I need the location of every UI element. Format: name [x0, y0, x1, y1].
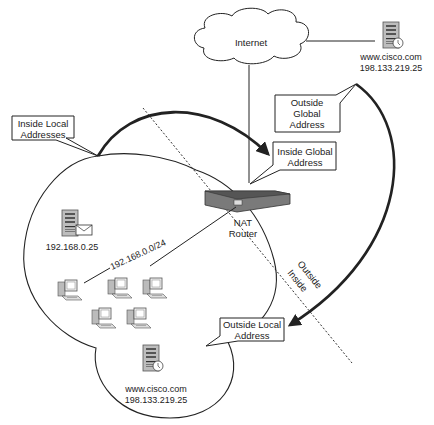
callout-outside-local: Outside Local Address [206, 318, 284, 346]
svg-text:Address: Address [235, 330, 270, 341]
router-label-router: Router [229, 228, 258, 239]
nat-router-icon [205, 191, 290, 212]
translation-arrow-inside [98, 112, 268, 156]
mail-server-icon [62, 210, 92, 236]
pc-icon [143, 278, 167, 298]
internet-label: Internet [235, 37, 268, 48]
router-label-nat: NAT [234, 217, 252, 228]
callout-outside-global: Outside Global Address [275, 84, 356, 132]
pc-icon [58, 280, 82, 300]
svg-text:Inside Local: Inside Local [18, 118, 69, 129]
external-server-hostname: www.cisco.com [359, 52, 422, 62]
svg-text:Outside: Outside [291, 97, 324, 108]
svg-text:Address: Address [288, 157, 323, 168]
svg-text:Global: Global [293, 108, 320, 119]
external-server-icon [383, 22, 403, 48]
pc-icon [108, 278, 132, 298]
outside-local-ip: 198.133.219.25 [125, 395, 188, 405]
subnet-label: 192.168.0.0/24 [109, 237, 168, 271]
mail-server-ip: 192.168.0.25 [46, 242, 99, 252]
pc-icon [127, 308, 151, 328]
svg-text:Inside Global: Inside Global [277, 146, 332, 157]
callout-inside-local: Inside Local Addresses [12, 116, 98, 156]
svg-text:Address: Address [290, 119, 325, 130]
outside-local-server-icon [143, 345, 163, 371]
pc-icon [92, 308, 116, 328]
svg-text:Addresses: Addresses [21, 129, 66, 140]
svg-text:Outside Local: Outside Local [223, 319, 281, 330]
outside-local-hostname: www.cisco.com [124, 384, 187, 394]
external-server-ip: 198.133.219.25 [360, 63, 423, 73]
internet-cloud: Internet [194, 8, 308, 64]
nat-diagram: Internet www.cisco.com 198.133.219.25 Ou… [0, 0, 434, 425]
